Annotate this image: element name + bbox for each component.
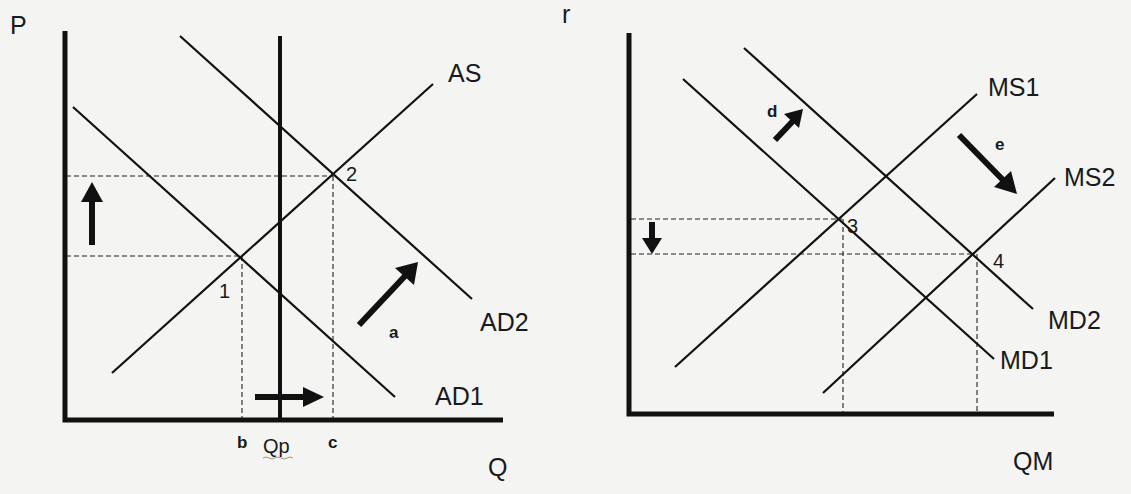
md2-label: MD2: [1048, 306, 1101, 334]
x-tick-c: c: [328, 433, 337, 452]
ms2-label: MS2: [1064, 163, 1115, 191]
x-axis-label-q: Q: [488, 453, 507, 481]
md1-label: MD1: [1000, 346, 1053, 374]
ad1-label: AD1: [435, 382, 484, 410]
right-panel-money-market: r QM MS1 MS2 MD1 MD2 3 4 d e: [562, 0, 1115, 475]
arrow-e-label: e: [995, 135, 1004, 154]
as-label: AS: [448, 59, 481, 87]
shift-arrow-e-icon: [959, 135, 1017, 194]
rate-down-arrow-icon: [642, 222, 662, 254]
y-axis-label-p: P: [10, 11, 27, 39]
y-axis-label-r: r: [562, 0, 570, 28]
arrow-d-label: d: [767, 102, 777, 121]
equilibrium-3-label: 3: [847, 215, 858, 237]
price-up-arrow-icon: [81, 182, 103, 245]
x-axis-label-qm: QM: [1013, 447, 1053, 475]
ms1-curve: [675, 94, 977, 367]
left-axes: [65, 31, 503, 420]
equilibrium-4-label: 4: [993, 250, 1004, 272]
left-panel-ad-as: P Q AS AD1 AD2 2 1 a b Qp c: [10, 11, 529, 481]
arrow-a-label: a: [389, 323, 399, 342]
ad1-curve: [73, 107, 395, 397]
ms1-label: MS1: [988, 73, 1039, 101]
quantity-right-arrow-icon: [255, 387, 324, 407]
x-tick-qp: Qp: [263, 435, 290, 457]
ad2-label: AD2: [480, 308, 529, 336]
as-curve: [112, 84, 433, 373]
diagram-canvas: P Q AS AD1 AD2 2 1 a b Qp c: [0, 0, 1131, 494]
equilibrium-2-label: 2: [346, 163, 357, 185]
x-tick-b: b: [237, 433, 247, 452]
shift-arrow-a-icon: [359, 262, 418, 325]
shift-arrow-d-icon: [775, 109, 803, 140]
ad2-curve: [180, 36, 472, 299]
equilibrium-1-label: 1: [219, 280, 230, 302]
spellcheck-underline: [263, 457, 293, 459]
